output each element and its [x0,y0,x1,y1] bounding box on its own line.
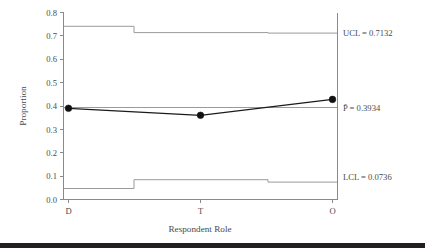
y-tick-label-0.5: 0.5 [46,78,57,88]
y-axis-ticks [60,13,64,200]
center-annotation-label: P̄ = 0.3934 [343,103,381,113]
y-axis-title: Proportion [18,86,28,126]
data-point-o [329,96,336,103]
y-tick-label-0.7: 0.7 [46,31,57,41]
x-tick-label-o: O [329,206,335,216]
lcl-annotation-label: LCL = 0.0736 [343,172,392,182]
data-point-t [197,112,204,119]
p-control-chart: 0.8 0.7 0.6 0.5 0.4 0.3 0.2 0.1 0.0 D T … [0,0,425,250]
y-tick-label-0.2: 0.2 [46,148,57,158]
x-axis-ticks [69,200,333,204]
y-axis-tick-labels: 0.8 0.7 0.6 0.5 0.4 0.3 0.2 0.1 0.0 [46,8,57,205]
x-axis-title: Respondent Role [168,224,231,234]
bottom-divider-rule [0,243,425,248]
y-tick-label-0.8: 0.8 [46,8,57,18]
x-axis-tick-labels: D T O [65,206,335,216]
x-tick-label-d: D [65,206,71,216]
plot-frame [64,13,338,200]
y-tick-label-0.4: 0.4 [46,101,57,111]
ucl-step-line [64,26,337,33]
y-tick-label-0.0: 0.0 [46,195,57,205]
y-tick-label-0.6: 0.6 [46,54,57,64]
control-chart-figure: 0.8 0.7 0.6 0.5 0.4 0.3 0.2 0.1 0.0 D T … [0,0,425,250]
y-tick-label-0.3: 0.3 [46,125,57,135]
x-tick-label-t: T [198,206,204,216]
data-point-d [65,105,72,112]
ucl-annotation-label: UCL = 0.7132 [343,28,393,38]
y-tick-label-0.1: 0.1 [46,171,57,181]
lcl-step-line [64,180,337,189]
